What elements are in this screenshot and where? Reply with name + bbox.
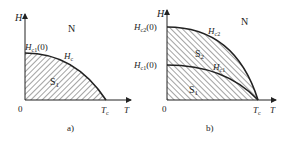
origin-label: 0 <box>18 104 23 114</box>
panel-a: H N Hc1(0) Hc S1 0 Tc T a) <box>14 12 131 133</box>
hc-curve-label: Hc <box>63 51 74 62</box>
normal-region-label: N <box>68 23 75 34</box>
t-axis-label: T <box>270 105 276 115</box>
t-axis-label: T <box>124 105 130 115</box>
hc1-zero-label: Hc1(0) <box>24 42 48 53</box>
origin-label: 0 <box>162 104 167 114</box>
hc1-zero-label: Hc1(0) <box>133 60 157 71</box>
h-axis-label: H <box>14 12 23 23</box>
panel-b: H N Hc2(0) Hc1(0) Hc2 Hc1 S2 S1 0 Tc T b… <box>133 8 276 133</box>
h-axis-label: H <box>156 8 165 19</box>
hc2-curve-label: Hc2 <box>207 26 220 37</box>
tc-label: Tc <box>101 105 109 116</box>
tc-label: Tc <box>253 105 261 116</box>
caption-b: b) <box>206 123 214 133</box>
normal-region-label: N <box>241 16 248 27</box>
caption-a: a) <box>67 123 74 133</box>
hc2-zero-label: Hc2(0) <box>133 22 157 33</box>
phase-diagram: H N Hc1(0) Hc S1 0 Tc T a) H N Hc2(0) Hc… <box>0 0 286 143</box>
